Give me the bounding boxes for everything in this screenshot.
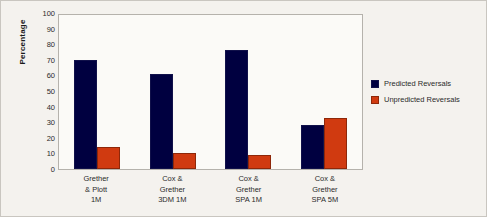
x-tick-label-line: & Plott [58, 185, 134, 196]
bar-unpredicted[interactable] [324, 118, 347, 169]
x-tick-label-line: Grether [211, 185, 287, 196]
y-axis-tick-labels: 1009080706050403020100 [29, 14, 55, 170]
x-tick-label-line: Grether [287, 185, 363, 196]
y-tick-label: 100 [29, 10, 55, 18]
bar-predicted[interactable] [301, 125, 324, 169]
bar-unpredicted[interactable] [248, 155, 271, 169]
bar-group [211, 15, 287, 169]
bar-predicted[interactable] [150, 74, 173, 169]
bar-group [135, 15, 211, 169]
x-tick-label-line: 1M [58, 195, 134, 206]
bar-unpredicted[interactable] [97, 147, 120, 169]
x-tick-label-line: Cox & [287, 174, 363, 185]
y-tick-label: 60 [29, 72, 55, 80]
bar-predicted[interactable] [225, 50, 248, 169]
bar-group [59, 15, 135, 169]
y-tick-label: 0 [29, 166, 55, 174]
legend-label: Predicted Reversals [384, 79, 451, 88]
bar-predicted[interactable] [74, 60, 97, 169]
bar-group [286, 15, 362, 169]
y-tick-label: 20 [29, 135, 55, 143]
x-tick-label-line: Cox & [134, 174, 210, 185]
legend-label: Unpredicted Reversals [384, 95, 460, 104]
legend-item[interactable]: Predicted Reversals [371, 79, 483, 88]
y-tick-label: 70 [29, 57, 55, 65]
x-tick-label: Cox &GretherSPA 1M [211, 174, 287, 214]
legend-swatch-icon [371, 96, 379, 104]
y-tick-label: 30 [29, 119, 55, 127]
chart-legend: Predicted ReversalsUnpredicted Reversals [371, 79, 483, 111]
x-tick-label: Grether& Plott1M [58, 174, 134, 214]
y-tick-label: 10 [29, 150, 55, 158]
x-tick-label-line: Cox & [211, 174, 287, 185]
x-tick-label-line: 3DM 1M [134, 195, 210, 206]
bar-unpredicted[interactable] [173, 153, 196, 169]
x-axis-category-labels: Grether& Plott1MCox &Grether3DM 1MCox &G… [58, 174, 363, 214]
bar-groups [59, 15, 362, 169]
bar-chart-screenshot: Percentage 1009080706050403020100 Grethe… [0, 0, 487, 217]
x-tick-label-line: Grether [58, 174, 134, 185]
y-tick-label: 50 [29, 88, 55, 96]
y-tick-label: 90 [29, 26, 55, 34]
x-tick-label-line: SPA 1M [211, 195, 287, 206]
y-tick-label: 40 [29, 104, 55, 112]
y-tick-label: 80 [29, 41, 55, 49]
x-tick-label: Cox &Grether3DM 1M [134, 174, 210, 214]
x-tick-label-line: SPA 5M [287, 195, 363, 206]
x-tick-label-line: Grether [134, 185, 210, 196]
x-tick-label: Cox &GretherSPA 5M [287, 174, 363, 214]
plot-area [58, 14, 363, 170]
legend-swatch-icon [371, 80, 379, 88]
legend-item[interactable]: Unpredicted Reversals [371, 95, 483, 104]
